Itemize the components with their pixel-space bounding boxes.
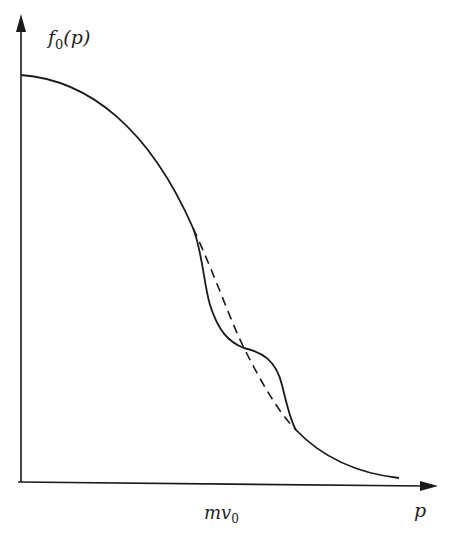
distribution-diagram: f0(p) mv0 p [0, 0, 450, 539]
perturbed-curve [193, 228, 296, 430]
x-tick-label-mv0: mv0 [204, 502, 239, 526]
y-axis-arrow-icon [16, 14, 26, 32]
distribution-curve-tail [296, 430, 399, 478]
x-axis [18, 482, 424, 486]
unperturbed-curve-dashed [193, 228, 296, 430]
x-axis-arrow-icon [420, 481, 438, 491]
x-axis-label: p [414, 499, 426, 521]
distribution-curve-upper [21, 75, 193, 228]
y-axis-label: f0(p) [46, 26, 90, 52]
